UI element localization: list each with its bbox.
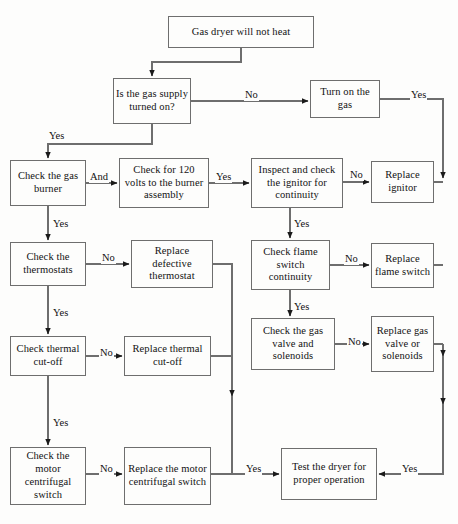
edge-label-no-thermal: No (99, 348, 114, 359)
edge-label-yes-thermal-down: Yes (52, 418, 69, 429)
node-replace-flame-switch[interactable]: Replace flame switch (371, 243, 434, 288)
node-check-120-volts[interactable]: Check for 120 volts to the burner assemb… (119, 158, 209, 208)
edge-label-no-ignitor: No (349, 170, 364, 181)
node-check-120-volts-label: Check for 120 volts to the burner assemb… (122, 164, 206, 202)
flowchart-canvas: Gas dryer will not heat Is the gas suppl… (0, 0, 458, 524)
edge-label-no-gas-supply: No (244, 90, 259, 101)
node-replace-thermal-cutoff-label: Replace thermal cut-off (127, 343, 208, 369)
node-replace-flame-switch-label: Replace flame switch (374, 253, 431, 279)
node-gas-supply-label: Is the gas supply turned on? (116, 88, 188, 114)
edge-label-no-thermostats: No (101, 253, 116, 264)
edge-label-yes-thermostats-down: Yes (52, 308, 69, 319)
node-test-dryer[interactable]: Test the dryer for proper operation (281, 448, 377, 500)
node-replace-thermal-cutoff[interactable]: Replace thermal cut-off (124, 336, 211, 376)
edge-label-yes-right-test: Yes (401, 464, 418, 475)
node-replace-motor-switch[interactable]: Replace the motor centrifugal switch (124, 447, 211, 505)
edge-label-yes-turn-on-gas: Yes (410, 90, 427, 101)
node-check-gas-burner-label: Check the gas burner (13, 170, 83, 196)
node-replace-ignitor[interactable]: Replace ignitor (371, 161, 434, 203)
edge-label-and-burner: And (89, 172, 109, 183)
node-check-gas-burner[interactable]: Check the gas burner (10, 160, 86, 206)
node-replace-gas-valve-label: Replace gas valve or solenoids (374, 325, 431, 363)
node-replace-thermostat[interactable]: Replace defective thermostat (131, 240, 213, 288)
node-check-thermal-cutoff-label: Check thermal cut-off (13, 343, 83, 369)
node-inspect-ignitor-label: Inspect and check the ignitor for contin… (254, 164, 340, 202)
node-check-gas-valve[interactable]: Check the gas valve and solenoids (251, 318, 335, 370)
node-replace-gas-valve[interactable]: Replace gas valve or solenoids (371, 316, 434, 372)
node-inspect-ignitor[interactable]: Inspect and check the ignitor for contin… (251, 158, 343, 208)
node-check-thermostats[interactable]: Check the thermostats (10, 242, 86, 286)
edge-label-yes-burner-down: Yes (52, 219, 69, 230)
edge-label-yes-ignitor-down: Yes (293, 219, 310, 230)
edge-label-yes-left-test: Yes (245, 464, 262, 475)
node-check-flame-switch[interactable]: Check flame switch continuity (251, 240, 330, 290)
node-check-flame-switch-label: Check flame switch continuity (254, 246, 327, 284)
node-start-label: Gas dryer will not heat (171, 26, 311, 39)
edge-label-no-gas-valve: No (347, 337, 362, 348)
node-gas-supply[interactable]: Is the gas supply turned on? (113, 78, 191, 124)
node-check-gas-valve-label: Check the gas valve and solenoids (254, 325, 332, 363)
edge-label-yes-120-volts: Yes (215, 172, 232, 183)
node-check-thermal-cutoff[interactable]: Check thermal cut-off (10, 336, 86, 376)
edge-label-yes-gas-supply: Yes (48, 131, 65, 142)
edge-label-no-flame-switch: No (344, 254, 359, 265)
node-check-motor-switch[interactable]: Check the motor centrifugal switch (10, 447, 86, 505)
node-turn-on-gas-label: Turn on the gas (313, 86, 377, 112)
edge-label-no-motor-switch: No (99, 464, 114, 475)
node-test-dryer-label: Test the dryer for proper operation (284, 461, 374, 487)
node-replace-thermostat-label: Replace defective thermostat (134, 245, 210, 283)
node-check-thermostats-label: Check the thermostats (13, 251, 83, 277)
node-replace-motor-switch-label: Replace the motor centrifugal switch (127, 463, 208, 489)
node-turn-on-gas[interactable]: Turn on the gas (310, 80, 380, 118)
node-start[interactable]: Gas dryer will not heat (168, 16, 314, 48)
node-check-motor-switch-label: Check the motor centrifugal switch (13, 450, 83, 501)
node-replace-ignitor-label: Replace ignitor (374, 169, 431, 195)
edge-label-yes-flame-down: Yes (293, 302, 310, 313)
